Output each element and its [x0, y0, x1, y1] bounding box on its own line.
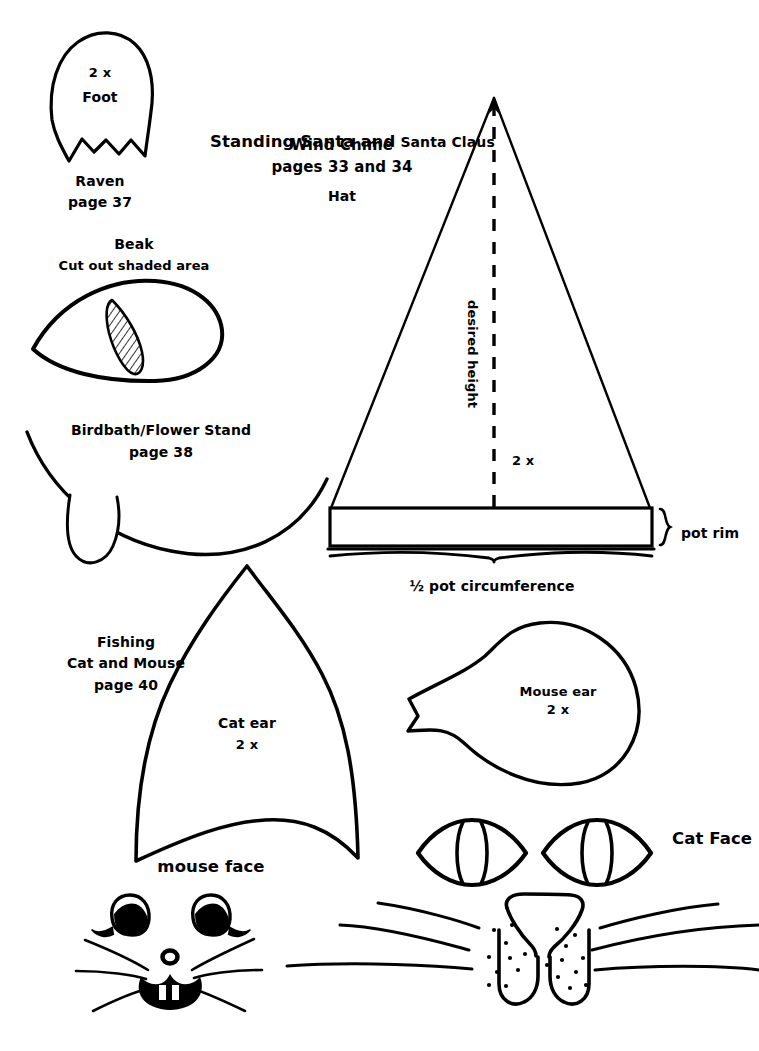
santa-hat-height-label: desired height [465, 300, 480, 408]
mouse-ear-quantity-label: 2 x [547, 702, 569, 717]
mouse-ear-shape [408, 622, 639, 784]
pattern-sheet: 2 x Foot Raven page 37 Beak Cut out shad… [0, 0, 759, 1051]
raven-beak-part-label: Beak [114, 236, 153, 253]
mouse-eye-left [92, 895, 149, 936]
cat-ear-quantity-label: 2 x [236, 737, 258, 752]
raven-beak-shape [33, 281, 222, 381]
cat-mouse-page-label: page 40 [94, 677, 158, 694]
cat-mouse-project-label-line2: Cat and Mouse [67, 655, 185, 672]
raven-project-label: Raven [75, 173, 124, 190]
mouse-face-part-label: mouse face [157, 857, 264, 876]
cat-ear-shape [136, 566, 358, 861]
raven-beak-instruction-label: Cut out shaded area [59, 258, 210, 273]
mouse-ear-part-label: Mouse ear [519, 684, 596, 699]
santa-hat-quantity-label: 2 x [512, 453, 534, 468]
santa-hat-title-light: Santa Claus [400, 134, 494, 150]
mouse-nose [163, 951, 178, 964]
santa-hat-title-line3: pages 33 and 34 [271, 159, 412, 177]
cat-ear-part-label: Cat ear [218, 715, 276, 732]
raven-foot-part-label: Foot [82, 89, 117, 106]
mouse-eye-right [193, 895, 250, 936]
mouse-face-shape [76, 895, 262, 1011]
cat-whiskers-left [287, 903, 479, 969]
cat-muzzle-shape [287, 894, 759, 1010]
raven-page-label: page 37 [68, 194, 132, 211]
birdbath-page-label: page 38 [129, 444, 193, 461]
santa-hat-rim-label: pot rim [681, 525, 739, 542]
cat-whiskers-right [592, 904, 759, 970]
santa-hat-part-label: Hat [328, 188, 356, 205]
cat-eye-left-shape [418, 820, 526, 885]
raven-foot-quantity-label: 2 x [89, 65, 111, 80]
birdbath-project-label: Birdbath/Flower Stand [71, 422, 251, 439]
cat-eye-right-shape [543, 820, 651, 885]
mouse-mouth [139, 974, 202, 1010]
cat-face-part-label: Cat Face [672, 829, 752, 848]
cat-mouse-project-label-line1: Fishing [97, 634, 155, 651]
santa-hat-circumference-label: ½ pot circumference [409, 578, 574, 595]
santa-hat-title-line2: Wind Chime [291, 137, 393, 155]
